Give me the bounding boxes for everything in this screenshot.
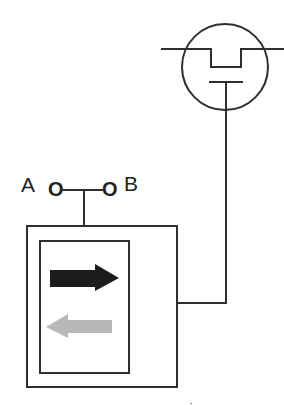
schematic-diagram: A O O B: [0, 0, 284, 405]
terminal-a-label: A: [21, 173, 35, 196]
gate-lead-wire: [177, 82, 226, 303]
forward-arrow-icon: [50, 264, 119, 291]
transistor-symbol: [162, 24, 283, 110]
ab-switch: A O O B: [21, 172, 138, 226]
module-outer-frame: [27, 226, 177, 387]
reverse-arrow-icon: [46, 314, 112, 338]
terminal-b-label: B: [124, 172, 138, 195]
terminal-b-node: O: [102, 178, 118, 200]
module-inner-panel: [40, 241, 129, 373]
scan-speck: [190, 403, 192, 404]
module-box: [27, 226, 177, 387]
